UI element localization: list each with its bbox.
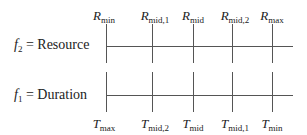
duration-tick-min: [272, 72, 273, 112]
duration-tick-label-mid: Tmid: [182, 117, 203, 133]
resource-tick-label-mid2: Rmid,2: [221, 9, 250, 25]
duration-tick-mid: [193, 72, 194, 112]
duration-tick-label-mid1: Tmid,1: [221, 117, 249, 133]
duration-tick-mid2: [152, 72, 153, 112]
duration-tick-mid1: [232, 72, 233, 112]
duration-axis-line: [106, 95, 293, 96]
resource-tick-label-min: Rmin: [93, 9, 115, 25]
resource-tick-label-max: Rmax: [260, 9, 283, 25]
resource-tick-max: [272, 24, 273, 63]
duration-tick-label-max: Tmax: [93, 117, 116, 133]
resource-tick-min: [106, 24, 107, 63]
duration-axis-label: f1 = Duration: [14, 88, 87, 104]
duration-tick-max: [106, 72, 107, 112]
duration-tick-label-mid2: Tmid,2: [141, 117, 169, 133]
resource-axis-line: [106, 46, 293, 47]
resource-tick-mid: [193, 24, 194, 63]
resource-tick-label-mid1: Rmid,1: [141, 9, 170, 25]
resource-tick-label-mid: Rmid: [182, 9, 204, 25]
duration-tick-label-min: Tmin: [261, 117, 282, 133]
resource-tick-mid1: [152, 24, 153, 63]
resource-axis-label: f2 = Resource: [14, 38, 89, 54]
resource-tick-mid2: [232, 24, 233, 63]
